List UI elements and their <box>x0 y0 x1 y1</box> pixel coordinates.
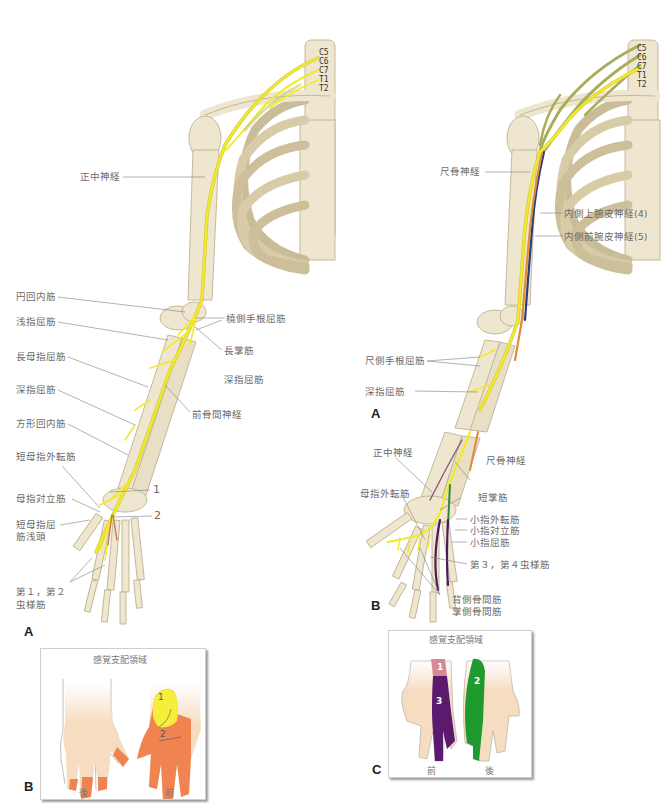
label-fdp-left: 深指屈筋 <box>16 384 56 395</box>
label-num-1: 1 <box>153 484 160 495</box>
label-palmar-interossei: 掌側骨間筋 <box>452 606 502 617</box>
spine-level-t2: T2 <box>319 84 329 93</box>
label-medial-antebrachial-cutaneous: 内側前腕皮神経(5) <box>564 231 647 242</box>
hands-sensory-ulnar <box>389 631 531 777</box>
label-fpl: 長母指屈筋 <box>16 351 66 362</box>
label-anterior-interosseous: 前骨間神経 <box>192 409 242 420</box>
spine-level-c7: C7 <box>637 62 647 71</box>
hand-label-palmar-right: 前 <box>427 764 436 777</box>
region-number-2: 2 <box>160 729 166 739</box>
region-number-3-right: 3 <box>436 696 442 706</box>
left-spine-levels: C5 C6 C7 T1 T2 <box>319 48 329 93</box>
sensory-box-left: 感覚支配領域 1 2 後 前 <box>40 648 206 800</box>
label-fpb-line1: 短母指屈 <box>16 519 56 530</box>
sensory-box-title: 感覚支配領域 <box>93 653 147 666</box>
label-fcr: 橈側手根屈筋 <box>226 313 286 324</box>
region-number-1: 1 <box>158 692 164 702</box>
right-spine-levels: C5 C6 C7 T1 T2 <box>637 44 647 89</box>
label-median-nerve: 正中神経 <box>80 171 120 182</box>
sensory-box-title-right: 感覚支配領域 <box>429 633 483 646</box>
panel-label-c: C <box>372 762 381 777</box>
region-number-1-right: 1 <box>437 662 443 672</box>
spine-level-c7: C7 <box>319 66 329 75</box>
label-fdp-right: 深指屈筋 <box>224 374 264 385</box>
panel-label-b-right: B <box>371 598 380 613</box>
label-ulnar-nerve-hand: 尺骨神経 <box>486 455 526 466</box>
label-abductor-digiti-minimi: 小指外転筋 <box>470 514 520 525</box>
label-median-nerve-hand: 正中神経 <box>373 447 413 458</box>
label-pronator-teres: 円回内筋 <box>16 291 56 302</box>
label-pronator-quadratus: 方形回内筋 <box>16 418 66 429</box>
panel-label-b-left: B <box>24 779 33 794</box>
spine-level-c6: C6 <box>637 53 647 62</box>
label-opponens-digiti-minimi: 小指対立筋 <box>470 525 520 536</box>
label-lumbricals-3-4: 第３，第４虫様筋 <box>470 559 550 570</box>
label-fds: 浅指屈筋 <box>16 316 56 327</box>
panel-label-a-left: A <box>24 624 33 639</box>
label-palmaris-brevis: 短掌筋 <box>478 492 508 503</box>
label-lumbricals-line2: 虫様筋 <box>16 599 46 610</box>
spine-level-c6: C6 <box>319 57 329 66</box>
label-dorsal-interossei: 背側骨間筋 <box>452 594 502 605</box>
label-num-2: 2 <box>154 510 161 521</box>
label-lumbricals-line1: 第１，第２ <box>16 586 66 597</box>
sensory-box-right: 感覚支配領域 1 3 2 前 後 <box>388 630 532 778</box>
label-medial-brachial-cutaneous: 内側上腕皮神経(4) <box>564 208 647 219</box>
label-palmaris-longus: 長掌筋 <box>224 345 254 356</box>
spine-level-c5: C5 <box>319 48 329 57</box>
label-flexor-digiti-minimi: 小指屈筋 <box>470 537 510 548</box>
region-number-2-right: 2 <box>474 676 480 686</box>
label-fcu: 尺側手根屈筋 <box>365 355 425 366</box>
spine-level-c5: C5 <box>637 44 647 53</box>
label-abductor-pollicis: 母指外転筋 <box>360 488 410 499</box>
hand-label-palmar: 前 <box>165 786 174 799</box>
label-fdp-right-fig: 深指屈筋 <box>365 386 405 397</box>
spine-level-t1: T1 <box>637 71 647 80</box>
spine-level-t1: T1 <box>319 75 329 84</box>
spine-level-t2: T2 <box>637 80 647 89</box>
hand-label-dorsal: 後 <box>79 786 88 799</box>
label-fpb-line2: 筋浅頭 <box>16 531 46 542</box>
label-opponens-pollicis: 母指対立筋 <box>16 493 66 504</box>
hands-sensory-median <box>41 649 205 799</box>
panel-label-a-right: A <box>371 406 380 421</box>
hand-label-dorsal-right: 後 <box>485 764 494 777</box>
label-apb: 短母指外転筋 <box>16 451 76 462</box>
left-skeleton <box>73 40 335 624</box>
label-ulnar-nerve: 尺骨神経 <box>440 166 480 177</box>
